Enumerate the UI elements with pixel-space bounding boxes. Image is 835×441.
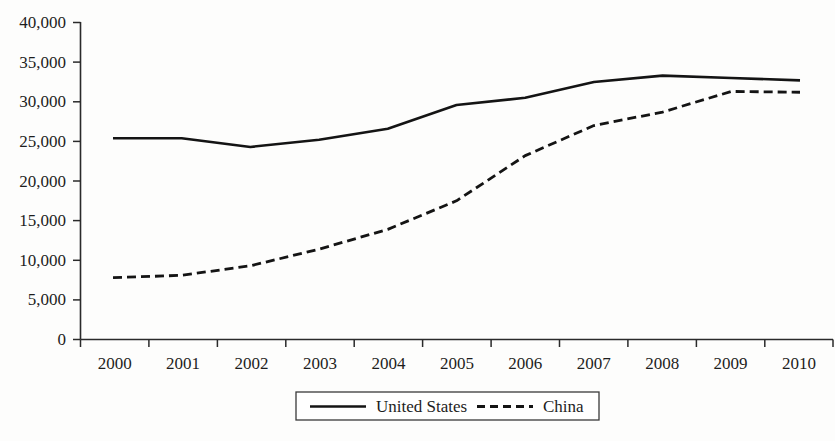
y-tick-label-15000: 15,000 bbox=[19, 211, 66, 230]
x-tick-label-2000: 2000 bbox=[98, 354, 132, 373]
y-tick-label-35000: 35,000 bbox=[19, 53, 66, 72]
y-tick-label-0: 0 bbox=[58, 330, 67, 349]
legend-label-china: China bbox=[543, 397, 584, 416]
series-line-united-states bbox=[113, 76, 800, 147]
x-tick-label-2010: 2010 bbox=[782, 354, 816, 373]
y-axis-ticks bbox=[73, 23, 81, 340]
y-tick-label-10000: 10,000 bbox=[19, 251, 66, 270]
y-tick-label-20000: 20,000 bbox=[19, 172, 66, 191]
x-axis-tick-labels: 2000 2001 2002 2003 2004 2005 2006 2007 … bbox=[98, 354, 816, 373]
y-tick-label-25000: 25,000 bbox=[19, 132, 66, 151]
series-line-china bbox=[113, 91, 800, 277]
x-tick-label-2002: 2002 bbox=[235, 354, 269, 373]
line-chart: 40,000 35,000 30,000 25,000 20,000 15,00… bbox=[0, 0, 835, 441]
x-tick-label-2007: 2007 bbox=[577, 354, 612, 373]
legend-label-united-states: United States bbox=[376, 397, 467, 416]
x-tick-label-2004: 2004 bbox=[371, 354, 406, 373]
x-tick-label-2006: 2006 bbox=[508, 354, 542, 373]
y-tick-label-5000: 5,000 bbox=[28, 290, 66, 309]
y-axis-tick-labels: 40,000 35,000 30,000 25,000 20,000 15,00… bbox=[19, 13, 66, 349]
x-tick-label-2009: 2009 bbox=[714, 354, 748, 373]
chart-legend: United States China bbox=[296, 392, 599, 420]
x-tick-label-2001: 2001 bbox=[166, 354, 200, 373]
y-tick-label-40000: 40,000 bbox=[19, 13, 66, 32]
x-tick-label-2008: 2008 bbox=[645, 354, 679, 373]
x-axis-ticks bbox=[81, 340, 834, 348]
x-tick-label-2005: 2005 bbox=[440, 354, 474, 373]
y-tick-label-30000: 30,000 bbox=[19, 92, 66, 111]
x-tick-label-2003: 2003 bbox=[303, 354, 337, 373]
axes-group bbox=[81, 22, 834, 340]
series-group bbox=[113, 76, 800, 278]
chart-figure: 40,000 35,000 30,000 25,000 20,000 15,00… bbox=[0, 0, 835, 441]
